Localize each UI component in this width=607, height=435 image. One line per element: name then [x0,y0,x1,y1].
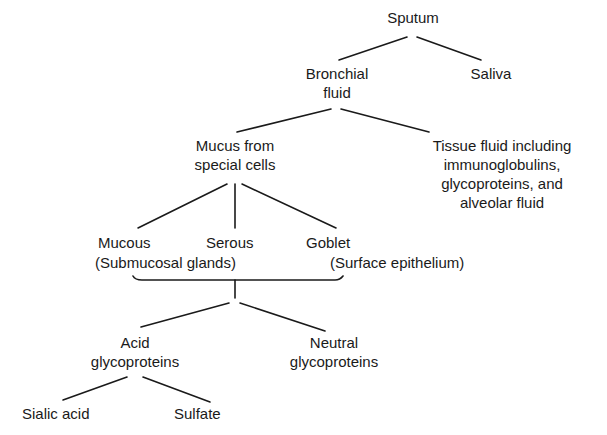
node-mucus-from-special-cells: Mucus from special cells [180,136,290,174]
node-bronchial-fluid: Bronchial fluid [287,64,387,102]
node-serous: Serous [206,233,268,252]
sputum-diagram: Sputum Saliva Bronchial fluid Mucus from… [0,0,607,435]
node-submucosal-glands: (Submucosal glands) [95,253,265,272]
node-sputum: Sputum [372,8,454,27]
node-sialic-acid: Sialic acid [22,404,112,423]
node-neutral-glycoproteins: Neutral glycoproteins [274,333,394,371]
node-surface-epithelium: (Surface epithelium) [330,253,500,272]
node-saliva: Saliva [456,64,526,83]
node-tissue-fluid: Tissue fluid including immunoglobulins, … [404,136,600,212]
node-goblet: Goblet [306,233,376,252]
node-acid-glycoproteins: Acid glycoproteins [75,333,195,371]
node-sulfate: Sulfate [174,404,244,423]
node-mucous: Mucous [98,233,168,252]
